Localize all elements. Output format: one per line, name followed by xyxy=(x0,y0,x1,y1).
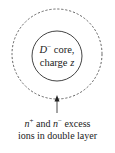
caption-line1: n+ and n− excess xyxy=(0,118,115,130)
caption-line2: ions in double layer xyxy=(0,130,115,142)
arrow-up-icon xyxy=(55,95,60,113)
caption: n+ and n− excess ions in double layer xyxy=(0,118,115,142)
core-label-line1: D− core, xyxy=(32,43,82,56)
core-label-line2: charge z xyxy=(32,56,82,69)
core-label: D− core, charge z xyxy=(32,43,82,69)
